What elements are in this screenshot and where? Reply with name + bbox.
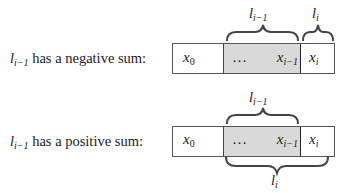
cell-var: x <box>309 131 316 147</box>
brace-label-l-i-bottom: li <box>271 172 278 190</box>
brace-icon <box>0 0 355 193</box>
array-row-2: x0 … xi−1 xi <box>172 126 335 157</box>
cell-shaded-segment: … xi−1 <box>223 127 301 156</box>
ellipsis: … <box>232 131 247 148</box>
cell-var: x <box>183 131 190 147</box>
brace-sub: i <box>275 179 278 190</box>
cell-xi: xi <box>302 127 334 156</box>
cell-sub: i−1 <box>283 138 298 149</box>
cell-x0: x0 <box>173 127 223 156</box>
cell-sub: 0 <box>190 138 195 149</box>
cell-sub: i <box>316 138 319 149</box>
